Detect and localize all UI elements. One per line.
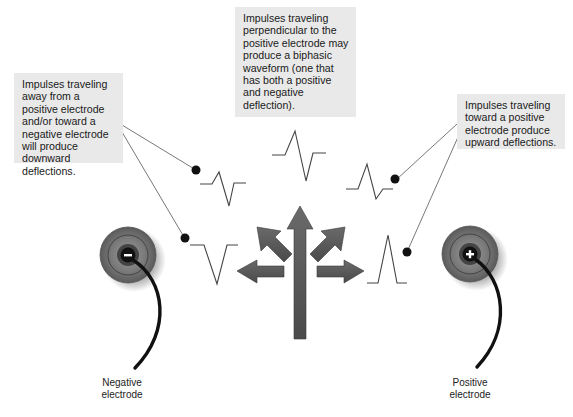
- dot-icon: [403, 248, 412, 257]
- positive-electrode-label: Positive electrode: [440, 377, 500, 401]
- waveform-upward: [367, 235, 407, 283]
- dot-icon: [192, 166, 201, 175]
- dot-icon: [391, 175, 400, 184]
- waveform-biphasic: [272, 131, 326, 181]
- impulse-arrows: [237, 206, 364, 339]
- negative-electrode-label: Negative electrode: [92, 377, 152, 401]
- arrow-up-right-icon: [310, 227, 345, 262]
- arrow-right-icon: [317, 260, 364, 283]
- leader-lines: [122, 124, 462, 252]
- callout-biphasic: Impulses traveling perpendicular to the …: [235, 7, 356, 117]
- arrow-up-left-icon: [257, 227, 292, 262]
- waveform-upward-biphasic: [346, 164, 393, 199]
- minus-icon: [124, 254, 132, 256]
- arrow-left-icon: [237, 260, 284, 283]
- waveform-downward: [190, 245, 238, 284]
- positive-electrode: [442, 226, 508, 367]
- callout-upward: Impulses traveling toward a positive ele…: [457, 94, 565, 149]
- negative-electrode: [100, 227, 166, 368]
- dot-icon: [181, 234, 190, 243]
- arrow-up-icon: [287, 206, 313, 339]
- callout-downward: Impulses traveling away from a positive …: [14, 73, 123, 163]
- waveform-downward-biphasic: [200, 172, 246, 206]
